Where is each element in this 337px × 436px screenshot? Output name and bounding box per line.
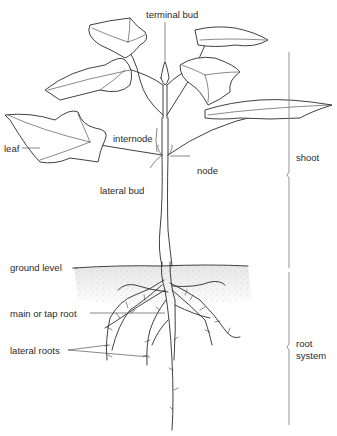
label-node: node bbox=[197, 165, 218, 176]
label-leaf: leaf bbox=[4, 143, 19, 154]
plant-illustration bbox=[0, 0, 337, 436]
shoot-brace bbox=[287, 52, 289, 268]
label-ground-level: ground level bbox=[10, 262, 62, 273]
label-shoot: shoot bbox=[296, 152, 319, 163]
soil bbox=[74, 265, 252, 306]
label-root: root bbox=[296, 338, 312, 349]
plant-diagram: terminal bud internode leaf node lateral… bbox=[0, 0, 337, 436]
label-main-root: main or tap root bbox=[10, 308, 77, 319]
label-lateral-bud: lateral bud bbox=[100, 185, 144, 196]
label-terminal-bud: terminal bud bbox=[146, 9, 198, 20]
label-lateral-roots: lateral roots bbox=[10, 345, 60, 356]
root-system-brace bbox=[287, 272, 289, 425]
leaves bbox=[5, 18, 332, 163]
label-system: system bbox=[296, 350, 326, 361]
label-internode: internode bbox=[113, 133, 153, 144]
stem bbox=[158, 62, 172, 266]
